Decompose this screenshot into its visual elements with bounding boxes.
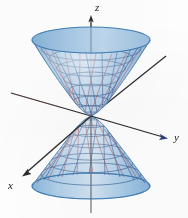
- z-axis-label: z: [94, 1, 100, 13]
- surface-plot-canvas: z y x: [0, 0, 188, 218]
- hyperboloid-figure: z y x: [0, 0, 188, 218]
- y-axis-ray-tint: [14, 94, 60, 107]
- lower-sheet: [28, 112, 156, 204]
- lower-specular-sheen: [28, 112, 156, 204]
- upper-sheet: [28, 27, 156, 124]
- x-axis-label: x: [7, 179, 13, 191]
- y-axis-label: y: [173, 131, 179, 143]
- lower-mesh: [28, 112, 156, 204]
